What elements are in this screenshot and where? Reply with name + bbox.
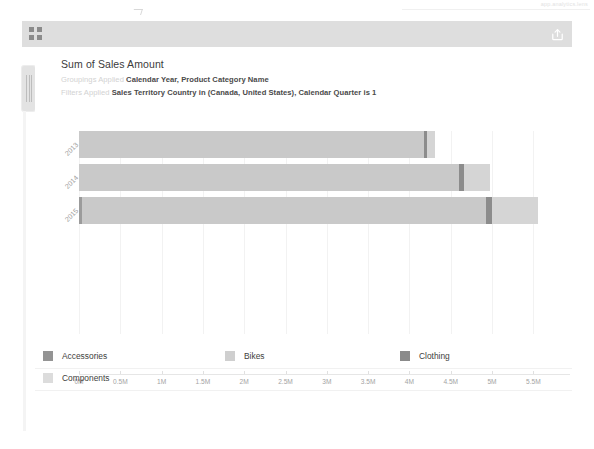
filters-applied-value: Sales Territory Country in (Canada, Unit… <box>112 88 377 97</box>
gridline <box>120 131 121 334</box>
legend-label: Clothing <box>419 351 450 361</box>
legend-item-clothing[interactable]: Clothing <box>400 351 450 361</box>
filters-applied-row: Filters Applied Sales Territory Country … <box>61 88 376 97</box>
gridline <box>368 131 369 334</box>
filters-applied-label: Filters Applied <box>61 88 109 97</box>
app-launcher-grid-icon[interactable] <box>29 27 42 40</box>
legend-item-bikes[interactable]: Bikes <box>225 351 264 361</box>
legend-label: Bikes <box>244 351 264 361</box>
gridline <box>79 131 80 334</box>
chart-plot-area <box>79 131 554 334</box>
browser-address-hint: app.analytics.lens <box>541 1 588 7</box>
gridline <box>533 131 534 334</box>
bar-segment-components[interactable] <box>427 131 435 158</box>
y-axis-label: 2013 <box>59 141 80 162</box>
gridline <box>327 131 328 334</box>
bar-row[interactable] <box>79 164 490 191</box>
legend-item-components[interactable]: Components <box>43 373 110 383</box>
bar-segment-bikes[interactable] <box>82 197 486 224</box>
legend-label: Accessories <box>62 351 107 361</box>
legend-swatch-bikes <box>225 351 235 361</box>
legend-label: Components <box>62 373 110 383</box>
groupings-applied-label: Groupings Applied <box>61 75 124 84</box>
chart-gridlines <box>79 131 554 334</box>
bar-segment-components[interactable] <box>464 164 490 191</box>
legend-row: Components <box>35 369 572 391</box>
chart-card: Sum of Sales Amount Groupings Applied Ca… <box>35 47 572 392</box>
groupings-applied-value: Calendar Year, Product Category Name <box>126 75 269 84</box>
bar-row[interactable] <box>79 131 435 158</box>
bar-segment-bikes[interactable] <box>79 164 459 191</box>
share-icon[interactable] <box>548 25 566 43</box>
y-axis-label: 2015 <box>59 207 80 228</box>
legend-item-accessories[interactable]: Accessories <box>43 351 107 361</box>
bar-row[interactable] <box>79 197 538 224</box>
gridline <box>162 131 163 334</box>
browser-top-strip: app.analytics.lens <box>0 0 594 14</box>
gridline <box>203 131 204 334</box>
gridline <box>244 131 245 334</box>
groupings-applied-row: Groupings Applied Calendar Year, Product… <box>61 75 269 84</box>
bar-segment-components[interactable] <box>492 197 538 224</box>
sidebar-drag-handle[interactable] <box>22 66 35 111</box>
chart-legend: AccessoriesBikesClothingComponents <box>35 347 572 391</box>
gridline <box>492 131 493 334</box>
legend-swatch-accessories <box>43 351 53 361</box>
legend-swatch-clothing <box>400 351 410 361</box>
cursor-artifact <box>132 9 143 15</box>
y-axis-label: 2014 <box>59 174 80 195</box>
bar-segment-bikes[interactable] <box>79 131 424 158</box>
gridline <box>286 131 287 334</box>
left-rail-divider <box>23 111 26 431</box>
gridline <box>451 131 452 334</box>
app-header-bar <box>22 21 572 47</box>
browser-strip-rule <box>402 9 590 10</box>
page-title: Sum of Sales Amount <box>61 58 164 70</box>
legend-row: AccessoriesBikesClothing <box>35 347 572 369</box>
legend-swatch-components <box>43 373 53 383</box>
gridline <box>409 131 410 334</box>
